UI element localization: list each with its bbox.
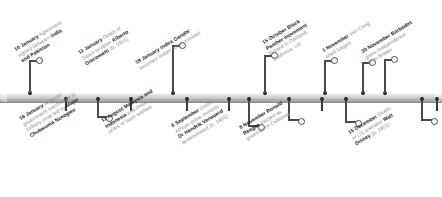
timeline-leader-ring: [431, 118, 438, 125]
timeline-event-label-text: becomes Indian prime minister: [137, 29, 201, 71]
timeline-tick: [186, 97, 188, 111]
timeline-event-label-line: 19 January Indira Gandhi: [134, 23, 198, 65]
timeline-event-label: 6 September SouthAfrican prime ministerD…: [170, 96, 229, 146]
timeline-axis-left-cap: [0, 93, 7, 102]
timeline-tick-dot: [227, 97, 231, 101]
timeline-leader-ring: [331, 57, 338, 64]
timeline-tick-dot: [435, 97, 439, 101]
timeline-leader-ring: [298, 118, 305, 125]
timeline-leader-ring: [391, 56, 398, 63]
timeline-leader-stem: [345, 101, 347, 123]
timeline-leader-stem: [362, 62, 364, 93]
timeline-leader-stem: [264, 55, 266, 93]
timeline-event-label: 15 December Deathof US animator WaltDisn…: [347, 105, 398, 147]
timeline-leader-stem: [384, 59, 386, 93]
timeline-leader-stem: [29, 60, 31, 93]
timeline-tick: [228, 97, 230, 111]
timeline-leader-ring: [36, 57, 43, 64]
timeline-figure: 10 January Agreementsigned between India…: [0, 0, 442, 197]
timeline-leader-stem: [421, 101, 423, 121]
timeline-tick-dot: [320, 97, 324, 101]
timeline-tick: [436, 97, 438, 111]
timeline-leader-stem: [324, 60, 326, 93]
timeline-event-label: 19 January Indira Gandhibecomes Indian p…: [134, 23, 202, 71]
timeline-event-label: 11 January Death ofSwiss sculptor Albert…: [77, 23, 133, 67]
timeline-tick: [321, 97, 323, 111]
timeline-tick-dot: [185, 97, 189, 101]
timeline-event-label-line: becomes Indian prime minister: [137, 29, 201, 71]
timeline-event-label: 8 November RonaldReagan elected asgovern…: [238, 99, 291, 142]
